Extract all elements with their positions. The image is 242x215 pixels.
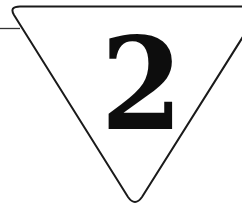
sign-number: 2: [101, 28, 165, 140]
